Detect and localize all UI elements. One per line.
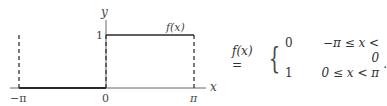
tick-label-neg-pi: −π: [10, 92, 26, 105]
tick-label-pi: π: [189, 92, 198, 105]
y-axis-label: y: [100, 5, 108, 19]
formula-period: .: [383, 57, 387, 71]
case-condition: −π ≤ x < 0: [319, 36, 379, 66]
curve-label: f(x): [165, 21, 185, 34]
tick-label-zero: 0: [102, 92, 109, 105]
case-condition: 0 ≤ x < π: [319, 66, 379, 81]
case-value: 0: [285, 36, 293, 66]
case-value: 1: [285, 66, 293, 81]
x-axis-label: x: [210, 80, 217, 94]
tick-label-one: 1: [96, 29, 103, 42]
formula-cases: 0 −π ≤ x < 0 1 0 ≤ x < π: [285, 36, 379, 81]
formula-lhs: f(x) =: [232, 44, 264, 72]
piecewise-formula: f(x) = { 0 −π ≤ x < 0 1 0 ≤ x < π .: [232, 41, 387, 75]
left-brace-icon: {: [269, 43, 280, 73]
